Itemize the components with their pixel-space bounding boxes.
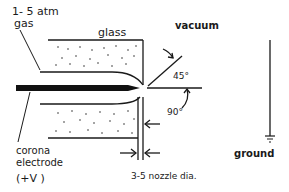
corona-electrode-needle (16, 85, 140, 91)
voltage-label: (+V ) (16, 172, 45, 185)
gas-label: gas (14, 17, 34, 30)
glass-stipple-upper (55, 45, 137, 67)
angle-45-indicator (147, 49, 202, 88)
corona-leader-line (18, 92, 30, 142)
nozzle-diameter-label: 3-5 nozzle dia. (131, 171, 197, 181)
angle-45-label: 45° (173, 71, 189, 81)
gas-leader-line (20, 30, 40, 70)
corona-label: corona (16, 145, 50, 156)
glass-end-arrow (145, 120, 160, 128)
glass-stipple-lower (55, 110, 135, 134)
glass-label: glass (98, 26, 127, 39)
corona-nozzle-diagram: 1- 5 atm gas glass vacuum 45° 90° corona… (0, 0, 289, 192)
ground-label: ground (234, 148, 274, 159)
ground-electrode (265, 40, 275, 142)
glass-tube (40, 40, 143, 160)
angle-90-indicator (182, 89, 190, 108)
vacuum-label: vacuum (175, 20, 219, 31)
angle-90-label: 90° (167, 107, 183, 117)
nozzle-diameter-arrows (120, 149, 160, 157)
electrode-label: electrode (16, 157, 63, 168)
